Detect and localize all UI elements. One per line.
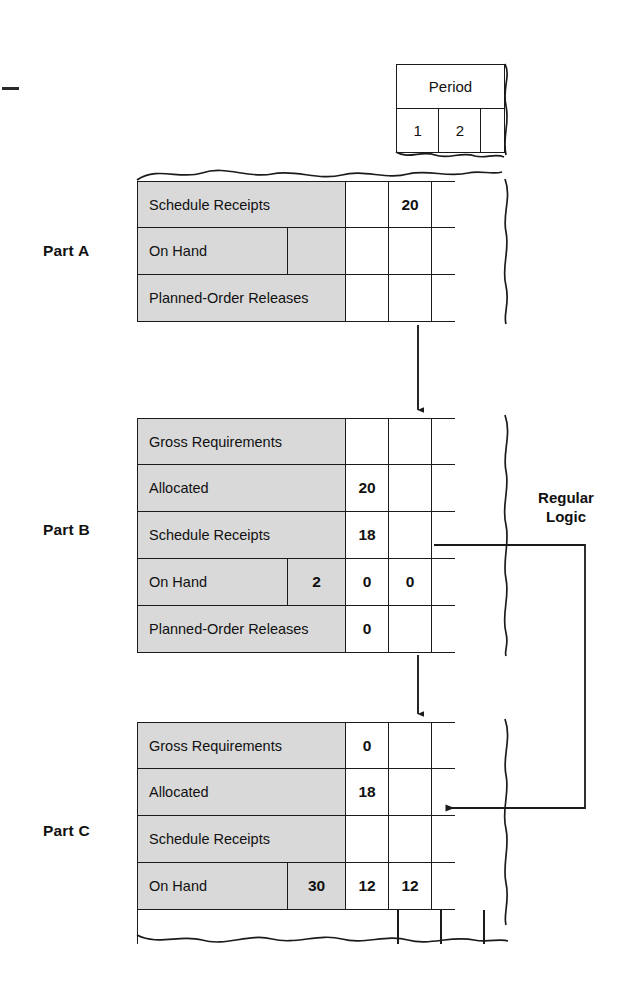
row-label: On Hand	[138, 228, 288, 274]
table-row: Gross Requirements	[137, 418, 455, 465]
on-hand-balance-cell	[288, 228, 346, 274]
regular-logic-connector	[434, 545, 585, 808]
period-cell-1: 18	[346, 512, 389, 558]
table-row: Gross Requirements0	[137, 722, 455, 769]
row-label: Allocated	[138, 769, 346, 815]
period-cell-3	[432, 863, 455, 909]
row-label: Planned-Order Releases	[138, 606, 346, 652]
period-header-columns: 1 2	[396, 108, 505, 153]
left-tick-mark	[2, 87, 19, 90]
row-label: Gross Requirements	[138, 419, 346, 464]
period-cell-3	[432, 182, 455, 227]
part-a-torn-right	[500, 176, 518, 326]
table-row: On Hand301212	[137, 863, 455, 910]
regular-logic-label: Regular Logic	[516, 489, 616, 527]
period-cell-2	[389, 465, 432, 511]
part-label-a: Part A	[43, 242, 89, 260]
period-cell-3	[432, 769, 455, 815]
diagram-canvas: Period 1 2 Part A Schedule Receipts20On …	[0, 0, 625, 1005]
period-cell-1	[346, 182, 389, 227]
row-label: On Hand	[138, 863, 288, 909]
period-header-label: Period	[429, 78, 472, 95]
period-cell-1: 20	[346, 465, 389, 511]
part-c-torn-right	[500, 717, 518, 927]
row-label: Gross Requirements	[138, 723, 346, 768]
period-cell-2	[389, 723, 432, 768]
period-cell-1	[346, 228, 389, 274]
table-row: On Hand200	[137, 559, 455, 606]
period-header-title: Period	[396, 64, 505, 109]
table-row: Schedule Receipts	[137, 816, 455, 863]
table-row: Schedule Receipts18	[137, 512, 455, 559]
period-cell-2: 20	[389, 182, 432, 227]
period-header: Period 1 2	[396, 64, 505, 153]
table-row: Planned-Order Releases	[137, 275, 455, 322]
period-cell-1	[346, 419, 389, 464]
period-cell-3	[432, 816, 455, 862]
period-cell-1: 0	[346, 723, 389, 768]
period-cell-2	[389, 419, 432, 464]
period-cell-3	[432, 559, 455, 605]
period-cell-3	[432, 419, 455, 464]
period-cell-1: 0	[346, 606, 389, 652]
period-column-2: 2	[439, 109, 481, 152]
period-cell-1: 0	[346, 559, 389, 605]
period-column-3	[481, 109, 504, 152]
period-cell-1: 12	[346, 863, 389, 909]
period-cell-1	[346, 816, 389, 862]
part-c-bottom-strip	[137, 910, 506, 944]
period-cell-3	[432, 606, 455, 652]
period-cell-3	[432, 275, 455, 321]
table-row: Planned-Order Releases0	[137, 606, 455, 653]
period-cell-1	[346, 275, 389, 321]
row-label: Schedule Receipts	[138, 182, 346, 227]
period-cell-3	[432, 228, 455, 274]
period-cell-2	[389, 275, 432, 321]
row-label: Schedule Receipts	[138, 816, 346, 862]
period-cell-2	[389, 606, 432, 652]
part-a-table: Schedule Receipts20On HandPlanned-Order …	[137, 181, 455, 322]
part-label-b: Part B	[43, 521, 90, 539]
period-cell-2	[389, 228, 432, 274]
table-row: On Hand	[137, 228, 455, 275]
period-column-1: 1	[397, 109, 439, 152]
period-cell-3	[432, 512, 455, 558]
row-label: Planned-Order Releases	[138, 275, 346, 321]
table-row: Allocated20	[137, 465, 455, 512]
part-b-table: Gross RequirementsAllocated20Schedule Re…	[137, 418, 455, 653]
part-label-c: Part C	[43, 822, 90, 840]
row-label: Schedule Receipts	[138, 512, 346, 558]
on-hand-balance-cell: 2	[288, 559, 346, 605]
period-cell-2: 12	[389, 863, 432, 909]
period-cell-2	[389, 769, 432, 815]
row-label: Allocated	[138, 465, 346, 511]
part-c-table: Gross Requirements0Allocated18Schedule R…	[137, 722, 455, 910]
period-cell-2	[389, 512, 432, 558]
period-cell-3	[432, 723, 455, 768]
period-cell-2	[389, 816, 432, 862]
period-cell-1: 18	[346, 769, 389, 815]
row-label: On Hand	[138, 559, 288, 605]
part-b-torn-right	[500, 413, 518, 658]
table-row: Allocated18	[137, 769, 455, 816]
period-cell-3	[432, 465, 455, 511]
on-hand-balance-cell: 30	[288, 863, 346, 909]
period-cell-2: 0	[389, 559, 432, 605]
table-row: Schedule Receipts20	[137, 181, 455, 228]
